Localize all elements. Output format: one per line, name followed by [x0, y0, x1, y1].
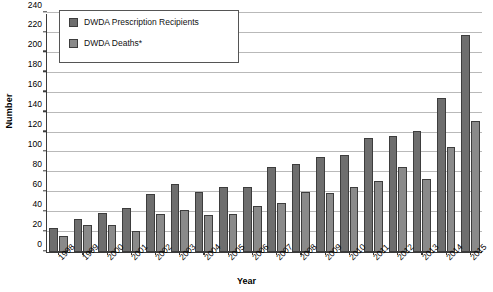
- bar: [422, 179, 431, 252]
- bar: [340, 155, 349, 252]
- y-axis-tick-label: 20: [33, 219, 42, 228]
- y-axis-tick-label: 200: [28, 40, 42, 49]
- bar-group: [338, 14, 362, 252]
- bar-group: [289, 14, 313, 252]
- bar-group: [241, 14, 265, 252]
- legend-label-prescriptions: DWDA Prescription Recipients: [84, 18, 199, 27]
- bar-group: [410, 14, 434, 252]
- x-axis-title: Year: [0, 276, 493, 286]
- bar: [316, 157, 325, 252]
- bar-group: [313, 14, 337, 252]
- y-axis-tick: [43, 11, 47, 12]
- y-axis-tick-label: 120: [28, 120, 42, 129]
- y-axis-tick-label: 80: [33, 160, 42, 169]
- bar: [461, 35, 470, 252]
- y-axis-tick-label: 40: [33, 199, 42, 208]
- bar: [292, 164, 301, 252]
- legend-swatch-deaths: [69, 39, 78, 48]
- bar: [146, 194, 155, 252]
- y-axis-tick-label: 100: [28, 140, 42, 149]
- bar: [471, 121, 480, 252]
- bar: [122, 208, 131, 252]
- legend-item-deaths: DWDA Deaths*: [69, 39, 238, 48]
- bar: [195, 192, 204, 252]
- bar: [350, 187, 359, 252]
- bar: [437, 98, 446, 252]
- y-axis-tick-label: 60: [33, 180, 42, 189]
- bar: [243, 187, 252, 252]
- bar-group: [265, 14, 289, 252]
- bar: [98, 213, 107, 252]
- bar: [364, 138, 373, 252]
- bar-chart: Number 020406080100120140160180200220240…: [0, 0, 493, 292]
- bar: [171, 184, 180, 252]
- y-axis-tick-label: 140: [28, 100, 42, 109]
- bar: [447, 147, 456, 252]
- bar: [219, 187, 228, 252]
- legend-label-deaths: DWDA Deaths*: [84, 39, 142, 48]
- bar: [413, 131, 422, 252]
- legend: DWDA Prescription Recipients DWDA Deaths…: [59, 10, 239, 63]
- bar: [374, 181, 383, 252]
- y-axis-title: Number: [4, 81, 14, 141]
- bar: [267, 167, 276, 252]
- y-axis-tick-label: 180: [28, 60, 42, 69]
- bar: [398, 167, 407, 252]
- legend-item-prescriptions: DWDA Prescription Recipients: [69, 18, 238, 27]
- legend-swatch-prescriptions: [69, 18, 78, 27]
- y-axis-tick-label: 240: [28, 0, 42, 9]
- bar-group: [362, 14, 386, 252]
- bar: [389, 136, 398, 252]
- bar-group: [459, 14, 483, 252]
- y-axis-tick-label: 0: [37, 239, 42, 248]
- bar-group: [386, 14, 410, 252]
- y-axis-tick-label: 220: [28, 20, 42, 29]
- y-axis-tick-label: 160: [28, 80, 42, 89]
- bar-group: [435, 14, 459, 252]
- bar: [49, 228, 58, 252]
